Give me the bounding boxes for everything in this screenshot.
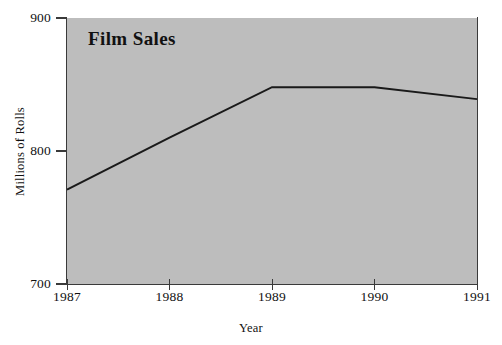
x-tick-label-1987: 1987: [32, 290, 102, 304]
series-polyline: [67, 87, 477, 189]
x-tick-label-1990: 1990: [340, 290, 410, 304]
chart-figure: Film Sales 900 800 700 1987 1988 1989 19…: [0, 0, 502, 345]
y-tick-mark-700: [56, 283, 67, 284]
x-tick-label-1988: 1988: [135, 290, 205, 304]
y-axis-title-wrapper: Millions of Rolls: [10, 0, 30, 302]
x-tick-label-1991: 1991: [442, 290, 502, 304]
y-tick-mark-800: [56, 150, 67, 151]
x-tick-label-1989: 1989: [237, 290, 307, 304]
plot-right-border: [477, 17, 478, 285]
y-axis-title: Millions of Rolls: [13, 107, 28, 196]
x-axis-title: Year: [0, 321, 502, 336]
y-tick-mark-900: [56, 17, 67, 18]
